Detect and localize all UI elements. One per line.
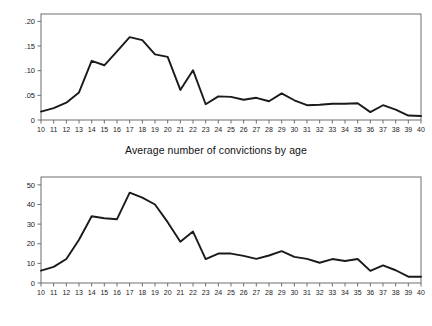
x-axis-tick-label: 31 xyxy=(303,126,311,133)
x-axis-tick-label: 23 xyxy=(202,289,210,296)
average-convictions-line-chart: 0.05.10.15.20101112131415161718192021222… xyxy=(0,0,432,145)
y-axis-tick-label: .10 xyxy=(25,66,35,75)
x-axis-tick-label: 34 xyxy=(341,126,349,133)
x-axis-tick-label: 17 xyxy=(126,126,134,133)
x-axis-tick-label: 10 xyxy=(37,126,45,133)
x-axis-tick-label: 17 xyxy=(126,289,134,296)
x-axis-tick-label: 16 xyxy=(113,289,121,296)
chart-panel-average-convictions: 0.05.10.15.20101112131415161718192021222… xyxy=(0,0,432,163)
data-series-line xyxy=(41,193,421,277)
plot-frame xyxy=(41,177,421,283)
x-axis-tick-label: 21 xyxy=(176,126,184,133)
x-axis-tick-label: 28 xyxy=(265,126,273,133)
x-axis-tick-label: 28 xyxy=(265,289,273,296)
x-axis-tick-label: 12 xyxy=(62,126,70,133)
x-axis-tick-label: 11 xyxy=(50,289,57,296)
x-axis-tick-label: 16 xyxy=(113,126,121,133)
x-axis-tick-label: 26 xyxy=(240,126,248,133)
x-axis-tick-label: 37 xyxy=(379,126,387,133)
x-axis-tick-label: 14 xyxy=(88,289,96,296)
x-axis-tick-label: 22 xyxy=(189,126,197,133)
males-with-convictions-line-chart: 0102030405010111213141516171819202122232… xyxy=(0,163,432,308)
x-axis-tick-label: 32 xyxy=(316,289,324,296)
y-axis-tick-label: 0 xyxy=(31,279,35,288)
y-axis-tick-label: 40 xyxy=(27,200,35,209)
x-axis-tick-label: 18 xyxy=(138,126,146,133)
x-axis-tick-label: 40 xyxy=(417,289,425,296)
y-axis-tick-label: .05 xyxy=(25,91,35,100)
x-axis-tick-label: 38 xyxy=(392,126,400,133)
x-axis-tick-label: 39 xyxy=(404,126,412,133)
x-axis-tick-label: 11 xyxy=(50,126,57,133)
plot-frame xyxy=(41,14,421,120)
x-axis-tick-label: 31 xyxy=(303,289,311,296)
x-axis-tick-label: 25 xyxy=(227,126,235,133)
x-axis-tick-label: 38 xyxy=(392,289,400,296)
x-axis-tick-label: 20 xyxy=(164,289,172,296)
x-axis-tick-label: 10 xyxy=(37,289,45,296)
y-axis-tick-label: 50 xyxy=(27,181,35,190)
x-axis-tick-label: 12 xyxy=(62,289,70,296)
x-axis-tick-label: 39 xyxy=(404,289,412,296)
x-axis-tick-label: 27 xyxy=(252,126,260,133)
x-axis-tick-label: 22 xyxy=(189,289,197,296)
x-axis-tick-label: 34 xyxy=(341,289,349,296)
y-axis-tick-label: 20 xyxy=(27,239,35,248)
y-axis-tick-label: 30 xyxy=(27,220,35,229)
x-axis-tick-label: 30 xyxy=(290,126,298,133)
x-axis-tick-label: 13 xyxy=(75,126,83,133)
x-axis-tick-label: 15 xyxy=(100,289,108,296)
x-axis-tick-label: 33 xyxy=(328,289,336,296)
x-axis-tick-label: 19 xyxy=(151,126,159,133)
x-axis-tick-label: 26 xyxy=(240,289,248,296)
y-axis-tick-label: .20 xyxy=(25,17,35,26)
chart-panel-males-with-convictions: 0102030405010111213141516171819202122232… xyxy=(0,163,432,326)
x-axis-tick-label: 24 xyxy=(214,289,222,296)
two-panel-line-chart-figure: 0.05.10.15.20101112131415161718192021222… xyxy=(0,0,432,326)
y-axis-tick-label: 0 xyxy=(31,116,35,125)
x-axis-tick-label: 19 xyxy=(151,289,159,296)
chart-caption-average-convictions: Average number of convictions by age xyxy=(0,145,432,156)
x-axis-tick-label: 13 xyxy=(75,289,83,296)
x-axis-tick-label: 23 xyxy=(202,126,210,133)
x-axis-tick-label: 35 xyxy=(354,126,362,133)
data-series-line xyxy=(41,37,421,116)
x-axis-tick-label: 14 xyxy=(88,126,96,133)
y-axis-tick-label: 10 xyxy=(27,259,35,268)
x-axis-tick-label: 18 xyxy=(138,289,146,296)
x-axis-tick-label: 33 xyxy=(328,126,336,133)
x-axis-tick-label: 21 xyxy=(176,289,184,296)
x-axis-tick-label: 32 xyxy=(316,126,324,133)
x-axis-tick-label: 36 xyxy=(366,126,374,133)
y-axis-tick-label: .15 xyxy=(25,42,35,51)
x-axis-tick-label: 36 xyxy=(366,289,374,296)
x-axis-tick-label: 29 xyxy=(278,126,286,133)
x-axis-tick-label: 40 xyxy=(417,126,425,133)
x-axis-tick-label: 27 xyxy=(252,289,260,296)
x-axis-tick-label: 24 xyxy=(214,126,222,133)
x-axis-tick-label: 37 xyxy=(379,289,387,296)
x-axis-tick-label: 25 xyxy=(227,289,235,296)
x-axis-tick-label: 30 xyxy=(290,289,298,296)
x-axis-tick-label: 15 xyxy=(100,126,108,133)
x-axis-tick-label: 20 xyxy=(164,126,172,133)
x-axis-tick-label: 35 xyxy=(354,289,362,296)
x-axis-tick-label: 29 xyxy=(278,289,286,296)
